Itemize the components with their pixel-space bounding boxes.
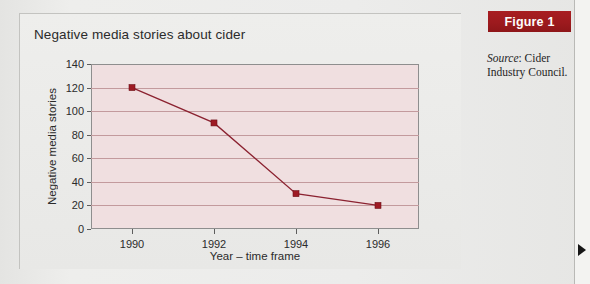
x-tick-label: 1994 [284,238,308,250]
y-axis-title: Negative media stories [46,64,58,229]
series-line [132,88,378,206]
figure-chart-panel: Negative media stories about cider Negat… [19,13,461,269]
x-tick-mark [296,229,297,234]
x-tick-mark [132,229,133,234]
data-point-marker [211,120,217,126]
y-tick-label: 0 [78,223,84,235]
x-tick-label: 1992 [202,238,226,250]
y-tick-label: 40 [72,176,84,188]
source-note: Source: Cider Industry Council. [487,52,571,79]
y-tick-label: 120 [66,82,84,94]
data-point-marker [375,202,381,208]
data-point-marker [129,85,135,91]
x-tick-mark [214,229,215,234]
data-series-layer [91,64,419,229]
page-gutter [575,0,590,284]
y-tick-mark [87,229,91,230]
right-margin-arrow-icon [578,244,586,256]
y-tick-label: 20 [72,199,84,211]
y-tick-label: 80 [72,129,84,141]
source-label: Source [487,52,519,64]
x-tick-label: 1996 [366,238,390,250]
x-tick-label: 1990 [120,238,144,250]
plot-wrap: 020406080100120140 1990199219941996 [91,64,419,229]
data-point-marker [293,191,299,197]
figure-number-banner: Figure 1 [488,11,571,32]
x-tick-mark [378,229,379,234]
y-tick-label: 140 [66,58,84,70]
figure-number-label: Figure 1 [504,15,554,29]
x-axis-title: Year – time frame [91,250,419,262]
chart-title: Negative media stories about cider [34,27,245,42]
y-tick-label: 60 [72,152,84,164]
y-tick-label: 100 [66,105,84,117]
